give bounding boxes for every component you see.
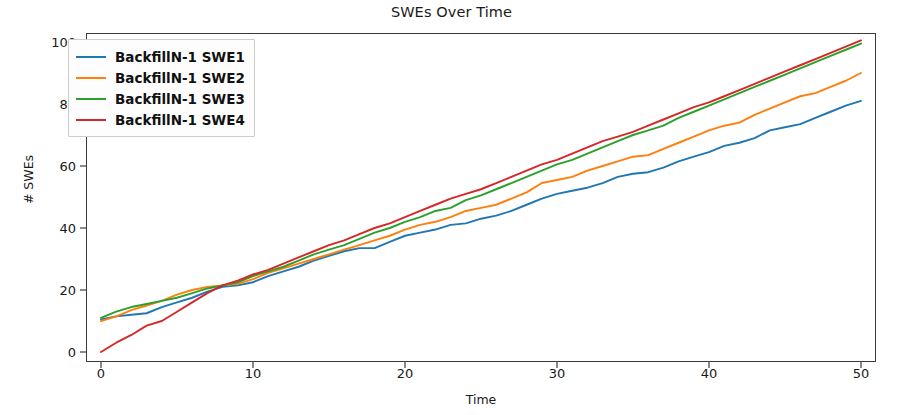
chart-title: SWEs Over Time — [0, 4, 903, 20]
legend-label: BackfillN-1 SWE4 — [115, 112, 245, 128]
legend-label: BackfillN-1 SWE1 — [115, 49, 245, 65]
y-tick-label: 0 — [32, 345, 76, 360]
y-axis-label: # SWEs — [21, 130, 36, 230]
legend-color-swatch — [76, 77, 106, 79]
legend-item[interactable]: BackfillN-1 SWE2 — [76, 67, 245, 88]
x-tick-label: 30 — [527, 366, 587, 381]
y-tick-label: 20 — [32, 283, 76, 298]
legend-color-swatch — [76, 98, 106, 100]
x-tick-label: 40 — [679, 366, 739, 381]
x-tick-label: 20 — [375, 366, 435, 381]
legend-color-swatch — [76, 119, 106, 121]
chart-legend: BackfillN-1 SWE1BackfillN-1 SWE2Backfill… — [68, 39, 255, 137]
x-tick-label: 50 — [831, 366, 891, 381]
chart-figure: SWEs Over Time 020406080100 01020304050 … — [0, 0, 903, 415]
legend-color-swatch — [76, 56, 106, 58]
legend-label: BackfillN-1 SWE3 — [115, 91, 245, 107]
x-tick-label: 10 — [223, 366, 283, 381]
legend-label: BackfillN-1 SWE2 — [115, 70, 245, 86]
legend-item[interactable]: BackfillN-1 SWE4 — [76, 109, 245, 130]
legend-item[interactable]: BackfillN-1 SWE3 — [76, 88, 245, 109]
y-tick-label: 40 — [32, 221, 76, 236]
legend-item[interactable]: BackfillN-1 SWE1 — [76, 46, 245, 67]
x-tick-label: 0 — [71, 366, 131, 381]
x-axis-label: Time — [86, 392, 876, 407]
y-tick-label: 60 — [32, 159, 76, 174]
